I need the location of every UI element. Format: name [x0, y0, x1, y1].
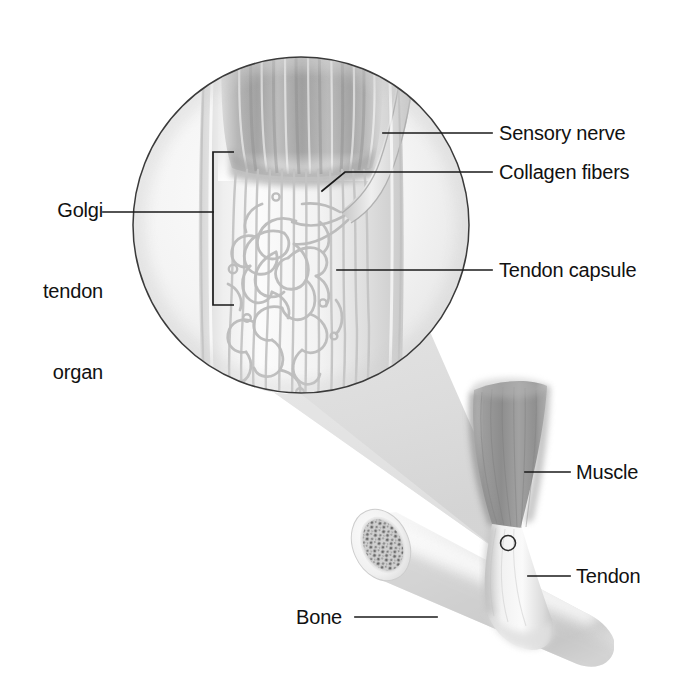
- label-muscle: Muscle: [576, 459, 638, 486]
- label-golgi-line-2: tendon: [0, 278, 103, 305]
- label-golgi-line-1: Golgi: [0, 197, 103, 224]
- label-collagen-fibers: Collagen fibers: [499, 159, 629, 186]
- label-golgi-line-3: organ: [0, 359, 103, 386]
- label-tendon: Tendon: [576, 563, 640, 590]
- label-tendon-capsule: Tendon capsule: [499, 257, 636, 284]
- label-bone: Bone: [234, 604, 342, 631]
- label-golgi-tendon-organ: Golgi tendon organ: [0, 143, 103, 440]
- anatomy-figure: Golgi tendon organ Sensory nerve Collage…: [0, 0, 682, 690]
- label-sensory-nerve: Sensory nerve: [499, 120, 625, 147]
- tendon-shaft: [483, 524, 553, 650]
